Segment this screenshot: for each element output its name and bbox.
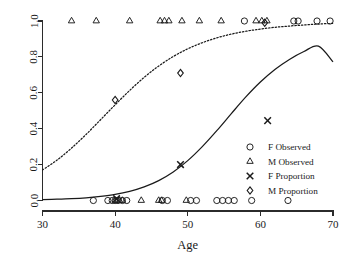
x-tick-label: 40	[110, 218, 122, 230]
axes-group: 0.00.20.40.60.81.03040506070	[28, 14, 340, 230]
point-circle	[220, 197, 226, 203]
point-circle	[231, 197, 237, 203]
y-tick-label: 0.2	[28, 158, 40, 172]
legend-label-m-observed: M Observed	[268, 157, 314, 167]
chart-figure: 0.00.20.40.60.81.03040506070 F ObservedM…	[0, 0, 355, 262]
x-axis-title: Age	[177, 238, 198, 252]
legend-marker-f-observed	[247, 144, 253, 150]
point-diamond	[178, 69, 184, 76]
y-tick-label: 0.0	[28, 193, 40, 207]
point-cross	[264, 117, 271, 124]
legend-label-f-observed: F Observed	[268, 142, 311, 152]
x-tick-label: 30	[37, 218, 49, 230]
scatter-plot-svg: 0.00.20.40.60.81.03040506070 F ObservedM…	[0, 0, 355, 262]
point-triangle	[179, 17, 185, 23]
point-triangle	[126, 17, 132, 23]
point-triangle	[196, 17, 202, 23]
legend-marker-m-observed	[247, 158, 253, 164]
legend-label-m-proportion: M Proportion	[268, 186, 318, 196]
point-circle	[295, 18, 301, 24]
point-circle	[90, 197, 96, 203]
legend-marker-m-proportion	[247, 187, 253, 194]
x-tick-label: 60	[255, 218, 267, 230]
point-triangle	[253, 17, 259, 23]
point-circle	[327, 18, 333, 24]
point-circle	[225, 197, 231, 203]
point-circle	[285, 197, 291, 203]
y-tick-label: 0.4	[28, 121, 40, 135]
point-circle	[314, 18, 320, 24]
point-circle	[214, 197, 220, 203]
y-tick-label: 1.0	[28, 14, 40, 28]
legend-label-f-proportion: F Proportion	[268, 171, 315, 181]
legend: F ObservedM ObservedF ProportionM Propor…	[247, 142, 318, 196]
point-triangle	[218, 17, 224, 23]
y-tick-label: 0.6	[28, 85, 40, 99]
point-triangle	[93, 17, 99, 23]
x-tick-label: 70	[328, 218, 340, 230]
point-triangle	[138, 197, 144, 203]
point-circle	[249, 197, 255, 203]
legend-marker-f-proportion	[247, 173, 254, 180]
point-triangle	[68, 17, 74, 23]
point-circle	[241, 18, 247, 24]
x-tick-label: 50	[182, 218, 194, 230]
y-tick-label: 0.8	[28, 50, 40, 64]
axis-labels-group: Age	[177, 238, 198, 252]
point-circle	[193, 197, 199, 203]
